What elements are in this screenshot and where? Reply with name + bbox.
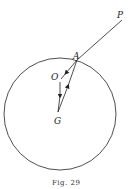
figure-29-diagram: P A O G Fig. 29: [0, 0, 131, 189]
line-p-a: [77, 20, 122, 60]
label-o: O: [51, 72, 59, 82]
circle: [4, 58, 116, 170]
figure-caption: Fig. 29: [52, 179, 80, 187]
label-g: G: [54, 116, 61, 126]
line-a-o: [61, 73, 66, 79]
line-g-a: [68, 60, 77, 86]
label-p: P: [116, 10, 124, 20]
label-a: A: [72, 51, 80, 61]
arrow-a-o: [66, 60, 77, 73]
